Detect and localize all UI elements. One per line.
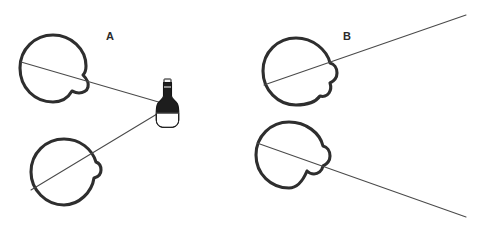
- panel-label-a: A: [106, 30, 114, 42]
- panel-a-upper-eye: [20, 35, 88, 102]
- figure-canvas: A B: [0, 0, 488, 233]
- vision-diagram-svg: A B: [0, 0, 488, 233]
- panel-label-b: B: [343, 30, 351, 42]
- bottle-label-band: [156, 113, 178, 127]
